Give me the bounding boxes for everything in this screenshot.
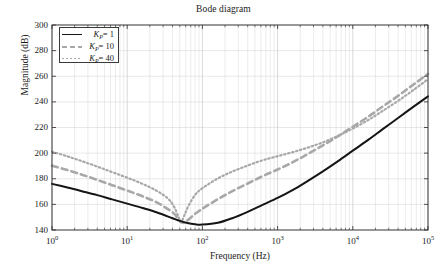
legend-item-kp40: KP= 40 bbox=[60, 52, 118, 64]
legend-item-kp10: KP= 10 bbox=[60, 40, 118, 52]
legend-label-kp10-eq: = 10 bbox=[99, 41, 114, 51]
legend-sample-dashed-icon bbox=[62, 46, 82, 48]
legend-item-kp1: KP= 1 bbox=[60, 28, 118, 40]
legend-label-kp40-eq: = 40 bbox=[99, 53, 114, 63]
legend-label-kp40-sub: P bbox=[95, 58, 99, 64]
series-line-10 bbox=[52, 74, 428, 223]
legend-sample-dotted-icon bbox=[62, 58, 82, 60]
bode-diagram-figure: Bode diagram Magnitude (dB) 140160180200… bbox=[0, 0, 447, 270]
series-line-40 bbox=[52, 79, 428, 222]
legend-sample-solid-icon bbox=[62, 34, 82, 36]
legend: KP= 1 KP= 10 KP= 40 bbox=[59, 27, 119, 63]
legend-label-kp1-eq: = 1 bbox=[103, 29, 114, 39]
